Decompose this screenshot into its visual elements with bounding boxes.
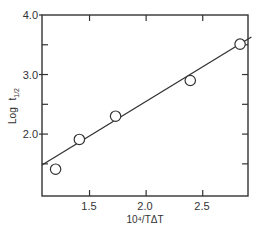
x-tick-label-2.5: 2.5 — [194, 200, 209, 212]
y-tick-label-2: 2.0 — [23, 128, 38, 140]
x-tick-label-1.5: 1.5 — [81, 200, 96, 212]
plot-frame — [42, 15, 248, 196]
y-axis-title-main: Log — [7, 107, 18, 124]
data-point — [185, 75, 195, 85]
x-tick-label-2.0: 2.0 — [137, 200, 152, 212]
data-point — [74, 134, 84, 144]
y-tick-label-3: 3.0 — [23, 69, 38, 81]
x-axis-title: 10⁴/TΔT — [126, 214, 163, 225]
regression-line — [42, 37, 251, 165]
y-axis-title: Log t1/2 — [7, 88, 20, 124]
svg-text:Log t1/2: Log t1/2 — [7, 88, 20, 124]
fit-line — [42, 37, 251, 165]
data-point — [235, 39, 245, 49]
data-point — [50, 164, 60, 174]
axis-ticks — [39, 15, 248, 196]
data-point — [110, 111, 120, 121]
y-tick-label-4: 4.0 — [23, 9, 38, 21]
chart: 4.0 3.0 2.0 1.5 2.0 2.5 10⁴/TΔT Log t1/2 — [0, 0, 257, 229]
y-axis-title-subscript: 1/2 — [13, 88, 20, 98]
